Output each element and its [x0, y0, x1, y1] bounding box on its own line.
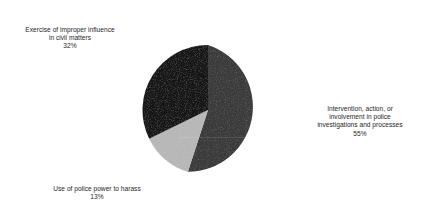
- pie-label-line: involvement in police: [296, 113, 424, 121]
- pie-label-value: 55%: [296, 130, 424, 138]
- pie-label-intervention: Intervention, action, or involvement in …: [296, 105, 424, 138]
- pie-label-line: investigations and processes: [296, 121, 424, 129]
- pie-label-line: Intervention, action, or: [296, 105, 424, 113]
- pie-label-improper-influence: Exercise of improper influence in civil …: [6, 26, 134, 51]
- pie-label-value: 13%: [30, 193, 164, 201]
- pie-label-line: Use of police power to harass: [30, 185, 164, 193]
- pie-label-harassment: Use of police power to harass 13%: [30, 185, 164, 201]
- pie-label-line: Exercise of improper influence: [6, 26, 134, 34]
- pie-label-value: 32%: [6, 42, 134, 50]
- chart-canvas: Exercise of improper influence in civil …: [0, 0, 427, 223]
- pie-chart: [143, 45, 273, 175]
- pie-label-line: in civil matters: [6, 34, 134, 42]
- pie-svg: [143, 45, 273, 175]
